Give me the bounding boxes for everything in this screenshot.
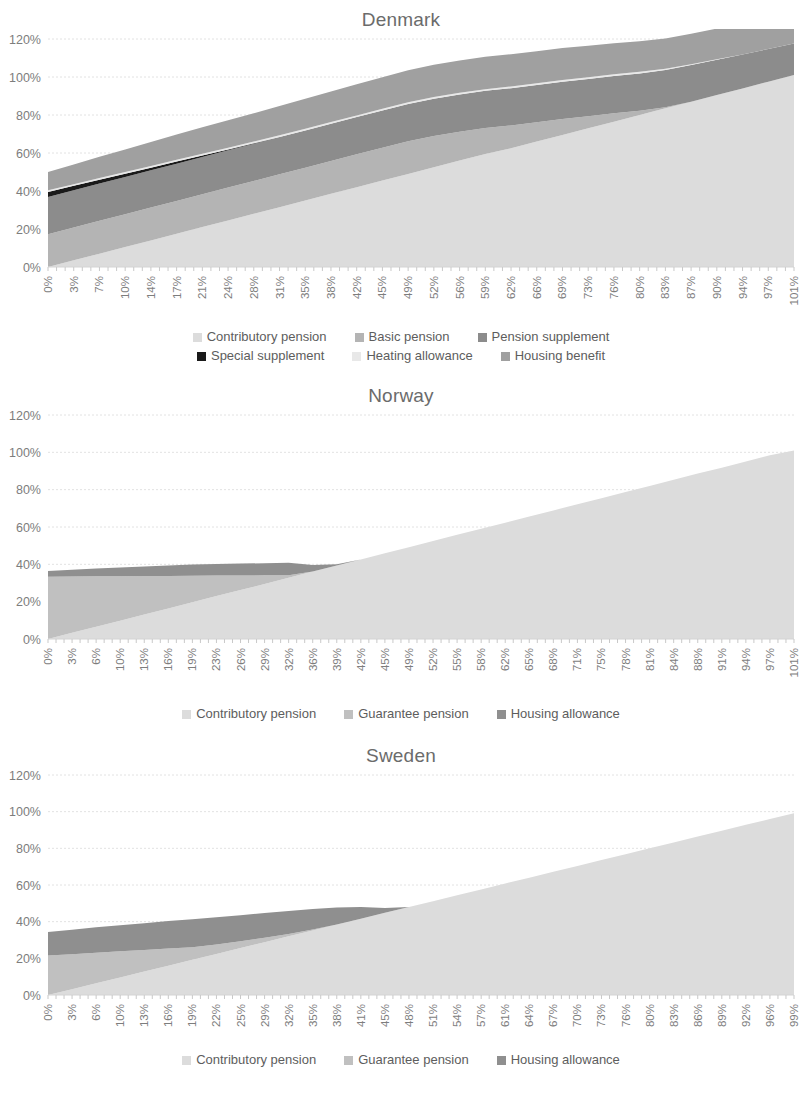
legend-swatch-icon: [344, 1056, 353, 1065]
x-axis-tick-label: 69%: [556, 276, 568, 299]
x-axis-tick-label: 62%: [505, 276, 517, 299]
legend-swatch-icon: [344, 710, 353, 719]
x-axis-tick-label: 23%: [210, 648, 222, 671]
x-axis-tick-label: 96%: [764, 1004, 776, 1027]
x-axis-tick-label: 32%: [283, 1004, 295, 1027]
y-axis-tick-label: 20%: [16, 952, 41, 966]
y-axis-tick-label: 80%: [16, 842, 41, 856]
x-axis-tick-label: 6%: [90, 1004, 102, 1021]
x-axis-tick-label: 86%: [692, 1004, 704, 1027]
y-axis-tick-label: 0%: [23, 988, 41, 1002]
x-axis-tick-label: 6%: [90, 648, 102, 665]
plot-area-sweden: 0%20%40%60%80%100%120%0%3%6%10%13%16%19%…: [0, 765, 802, 1047]
legend-label: Guarantee pension: [358, 1053, 469, 1068]
legend-item[interactable]: Housing benefit: [501, 349, 605, 364]
x-axis-tick-label: 16%: [162, 1004, 174, 1027]
x-axis-tick-label: 38%: [325, 276, 337, 299]
x-axis-tick-label: 49%: [402, 276, 414, 299]
y-axis-tick-label: 120%: [9, 768, 41, 782]
legend-label: Contributory pension: [207, 330, 327, 345]
y-axis-tick-label: 0%: [23, 261, 41, 275]
legend-item[interactable]: Guarantee pension: [344, 1053, 469, 1068]
y-axis-tick-label: 40%: [16, 915, 41, 929]
y-axis-tick-label: 100%: [9, 805, 41, 819]
legend-item[interactable]: Basic pension: [355, 330, 450, 345]
legend-swatch-icon: [193, 333, 202, 342]
x-axis-tick-label: 28%: [248, 276, 260, 299]
legend-norway: Contributory pension Guarantee pension H…: [0, 707, 802, 722]
y-axis-tick-label: 120%: [9, 33, 41, 47]
chart-norway: Norway 0%20%40%60%80%100%120%0%3%6%10%13…: [0, 364, 802, 722]
y-axis-tick-label: 80%: [16, 483, 41, 497]
x-axis-tick-label: 25%: [235, 1004, 247, 1027]
x-axis-tick-label: 75%: [595, 648, 607, 671]
x-axis-tick-label: 94%: [740, 648, 752, 671]
legend-label: Heating allowance: [366, 349, 472, 364]
x-axis-tick-label: 54%: [451, 1004, 463, 1027]
x-axis-tick-label: 71%: [571, 648, 583, 671]
x-axis-tick-label: 48%: [403, 1004, 415, 1027]
x-axis-tick-label: 83%: [659, 276, 671, 299]
legend-item[interactable]: Contributory pension: [193, 330, 327, 345]
x-axis-tick-label: 3%: [68, 276, 80, 293]
legend-label: Guarantee pension: [358, 707, 469, 722]
y-axis-tick-label: 60%: [16, 878, 41, 892]
x-axis-tick-label: 29%: [259, 648, 271, 671]
x-axis-tick-label: 32%: [283, 648, 295, 671]
x-axis-tick-label: 17%: [171, 276, 183, 299]
y-axis-tick-label: 40%: [16, 558, 41, 572]
legend-item[interactable]: Housing allowance: [497, 707, 620, 722]
legend-swatch-icon: [197, 352, 206, 361]
legend-item[interactable]: Pension supplement: [478, 330, 610, 345]
legend-item[interactable]: Guarantee pension: [344, 707, 469, 722]
x-axis-tick-label: 56%: [454, 276, 466, 299]
x-axis-tick-label: 57%: [475, 1004, 487, 1027]
x-axis-tick-label: 10%: [114, 648, 126, 671]
x-axis-tick-label: 59%: [479, 276, 491, 299]
legend-row: Special supplement Heating allowance Hou…: [0, 349, 802, 364]
chart-title-denmark: Denmark: [0, 10, 802, 29]
x-axis-tick-label: 13%: [138, 1004, 150, 1027]
legend-label: Basic pension: [369, 330, 450, 345]
chart-sweden: Sweden 0%20%40%60%80%100%120%0%3%6%10%13…: [0, 722, 802, 1068]
legend-label: Housing allowance: [511, 1053, 620, 1068]
legend-label: Housing benefit: [515, 349, 605, 364]
x-axis-tick-label: 38%: [331, 1004, 343, 1027]
x-axis-tick-label: 42%: [351, 276, 363, 299]
legend-label: Pension supplement: [492, 330, 610, 345]
chart-denmark: Denmark 0%20%40%60%80%100%120%0%3%7%10%1…: [0, 0, 802, 364]
legend-swatch-icon: [497, 710, 506, 719]
legend-label: Special supplement: [211, 349, 324, 364]
y-axis-tick-label: 100%: [9, 71, 41, 85]
x-axis-tick-label: 0%: [42, 648, 54, 665]
x-axis-tick-label: 51%: [427, 1004, 439, 1027]
legend-item[interactable]: Special supplement: [197, 349, 324, 364]
chart-title-sweden: Sweden: [0, 746, 802, 765]
y-axis-tick-label: 0%: [23, 632, 41, 646]
x-axis-tick-label: 19%: [186, 648, 198, 671]
x-axis-tick-label: 10%: [119, 276, 131, 299]
legend-item[interactable]: Contributory pension: [182, 707, 316, 722]
x-axis-tick-label: 97%: [762, 276, 774, 299]
x-axis-tick-label: 64%: [523, 1004, 535, 1027]
x-axis-tick-label: 41%: [355, 1004, 367, 1027]
legend-label: Housing allowance: [511, 707, 620, 722]
legend-item[interactable]: Heating allowance: [352, 349, 472, 364]
plot-svg-sweden: 0%20%40%60%80%100%120%0%3%6%10%13%16%19%…: [0, 765, 802, 1047]
y-axis-tick-label: 100%: [9, 446, 41, 460]
x-axis-tick-label: 94%: [737, 276, 749, 299]
y-axis-tick-label: 20%: [16, 223, 41, 237]
legend-item[interactable]: Housing allowance: [497, 1053, 620, 1068]
x-axis-tick-label: 73%: [595, 1004, 607, 1027]
x-axis-tick-label: 91%: [716, 648, 728, 671]
x-axis-tick-label: 7%: [93, 276, 105, 293]
plot-svg-norway: 0%20%40%60%80%100%120%0%3%6%10%13%16%19%…: [0, 405, 802, 695]
x-axis-tick-label: 35%: [307, 1004, 319, 1027]
x-axis-tick-label: 99%: [788, 1004, 800, 1027]
x-axis-tick-label: 3%: [66, 648, 78, 665]
legend-item[interactable]: Contributory pension: [182, 1053, 316, 1068]
x-axis-tick-label: 97%: [764, 648, 776, 671]
area-series-contributory-pension: [48, 450, 794, 639]
legend-row: Contributory pension Basic pension Pensi…: [0, 330, 802, 345]
x-axis-tick-label: 87%: [685, 276, 697, 299]
